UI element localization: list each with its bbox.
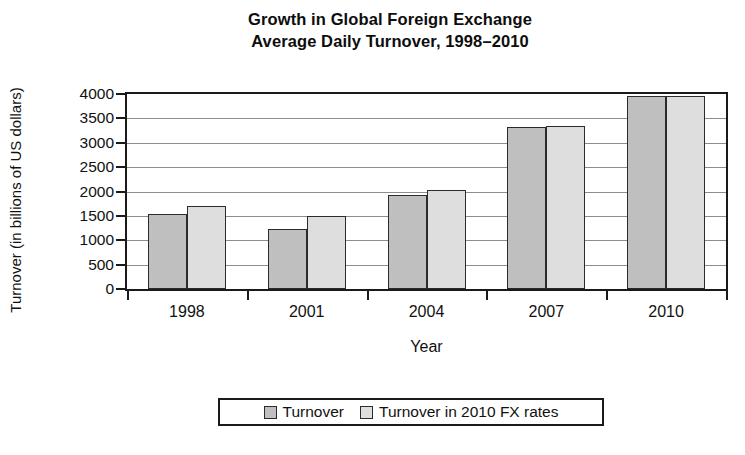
legend-label: Turnover bbox=[283, 403, 344, 421]
y-tick-mark bbox=[116, 264, 125, 266]
x-tick-label: 2004 bbox=[382, 303, 472, 321]
bar bbox=[507, 127, 546, 289]
x-tick-mark bbox=[247, 291, 249, 300]
legend-item-turnover-2010-fx: Turnover in 2010 FX rates bbox=[360, 403, 558, 421]
y-tick-mark bbox=[116, 239, 125, 241]
x-tick-label: 2010 bbox=[621, 303, 711, 321]
y-axis-label: Turnover (in billions of US dollars) bbox=[7, 87, 24, 312]
chart-title-line-1: Growth in Global Foreign Exchange bbox=[140, 8, 640, 30]
plot-inner bbox=[127, 94, 726, 289]
bar bbox=[627, 96, 666, 289]
bar bbox=[187, 206, 226, 289]
y-tick-mark bbox=[116, 93, 125, 95]
y-tick-mark bbox=[116, 166, 125, 168]
x-tick-label: 2007 bbox=[501, 303, 591, 321]
x-tick-mark bbox=[486, 291, 488, 300]
bar bbox=[546, 126, 585, 289]
bar bbox=[427, 190, 466, 289]
chart-title: Growth in Global Foreign Exchange Averag… bbox=[140, 8, 640, 53]
bar-chart: Growth in Global Foreign Exchange Averag… bbox=[0, 0, 745, 455]
y-axis-label-container: Turnover (in billions of US dollars) bbox=[2, 92, 28, 307]
plot-area bbox=[125, 92, 728, 291]
x-tick-mark bbox=[726, 291, 728, 300]
y-tick-label: 4000 bbox=[54, 86, 114, 102]
x-tick-mark bbox=[606, 291, 608, 300]
y-tick-label: 3500 bbox=[54, 110, 114, 126]
y-tick-label: 1500 bbox=[54, 208, 114, 224]
y-tick-label: 500 bbox=[54, 257, 114, 273]
y-tick-mark bbox=[116, 288, 125, 290]
chart-title-line-2: Average Daily Turnover, 1998–2010 bbox=[140, 30, 640, 52]
x-tick-mark bbox=[367, 291, 369, 300]
x-tick-label: 1998 bbox=[142, 303, 232, 321]
y-tick-mark bbox=[116, 117, 125, 119]
y-tick-label: 1000 bbox=[54, 232, 114, 248]
x-tick-label: 2001 bbox=[262, 303, 352, 321]
y-tick-mark bbox=[116, 215, 125, 217]
legend-swatch-icon bbox=[264, 406, 277, 419]
x-tick-mark bbox=[127, 291, 129, 300]
bar bbox=[307, 216, 346, 289]
x-axis-label: Year bbox=[125, 338, 728, 356]
bar bbox=[148, 214, 187, 289]
legend-swatch-icon bbox=[360, 406, 373, 419]
y-tick-mark bbox=[116, 142, 125, 144]
chart-legend: Turnover Turnover in 2010 FX rates bbox=[218, 398, 604, 426]
bar bbox=[666, 96, 705, 289]
y-tick-label: 2500 bbox=[54, 159, 114, 175]
y-tick-label: 3000 bbox=[54, 135, 114, 151]
bar bbox=[388, 195, 427, 289]
y-tick-label: 2000 bbox=[54, 184, 114, 200]
y-tick-mark bbox=[116, 191, 125, 193]
legend-label: Turnover in 2010 FX rates bbox=[379, 403, 558, 421]
legend-item-turnover: Turnover bbox=[264, 403, 344, 421]
bar bbox=[268, 229, 307, 289]
y-tick-label: 0 bbox=[54, 281, 114, 297]
